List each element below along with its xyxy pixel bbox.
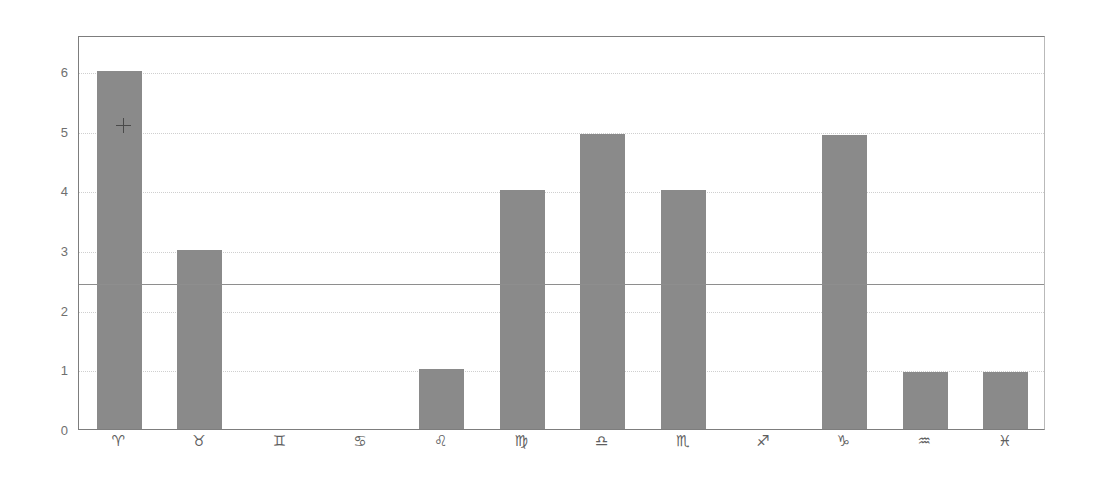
- y-axis-tick-label: 2: [16, 303, 68, 318]
- x-axis-tick-label-taurus: ♉: [192, 434, 205, 449]
- x-axis-tick-label-gemini: ♊: [273, 434, 286, 449]
- y-axis-tick-label: 0: [16, 423, 68, 438]
- reference-line: [79, 284, 1044, 285]
- x-axis-tick-label-scorpio: ♏: [676, 434, 689, 449]
- x-axis-tick-label-cancer: ♋: [353, 434, 366, 449]
- x-axis-tick-label-virgo: ♍: [514, 434, 527, 449]
- bar-chart: 0123456 ♈♉♊♋♌♍♎♏♐♑♒♓: [0, 0, 1110, 483]
- x-axis-tick-label-aries: ♈: [112, 434, 125, 449]
- x-axis-tick-label-leo: ♌: [434, 434, 447, 449]
- x-axis-tick-label-pisces: ♓: [998, 434, 1011, 449]
- x-axis: ♈♉♊♋♌♍♎♏♐♑♒♓: [78, 430, 1045, 470]
- x-axis-tick-label-aquarius: ♒: [917, 434, 930, 449]
- y-axis-tick-label: 6: [16, 64, 68, 79]
- reference-line-layer: [79, 37, 1044, 429]
- x-axis-tick-label-libra: ♎: [595, 434, 608, 449]
- y-axis-tick-label: 1: [16, 363, 68, 378]
- y-axis: 0123456: [0, 36, 68, 430]
- y-axis-tick-label: 3: [16, 243, 68, 258]
- x-axis-tick-label-capricorn: ♑: [837, 434, 850, 449]
- x-axis-tick-label-sagittarius: ♐: [756, 434, 769, 449]
- y-axis-tick-label: 5: [16, 124, 68, 139]
- plot-area: [78, 36, 1045, 430]
- y-axis-tick-label: 4: [16, 184, 68, 199]
